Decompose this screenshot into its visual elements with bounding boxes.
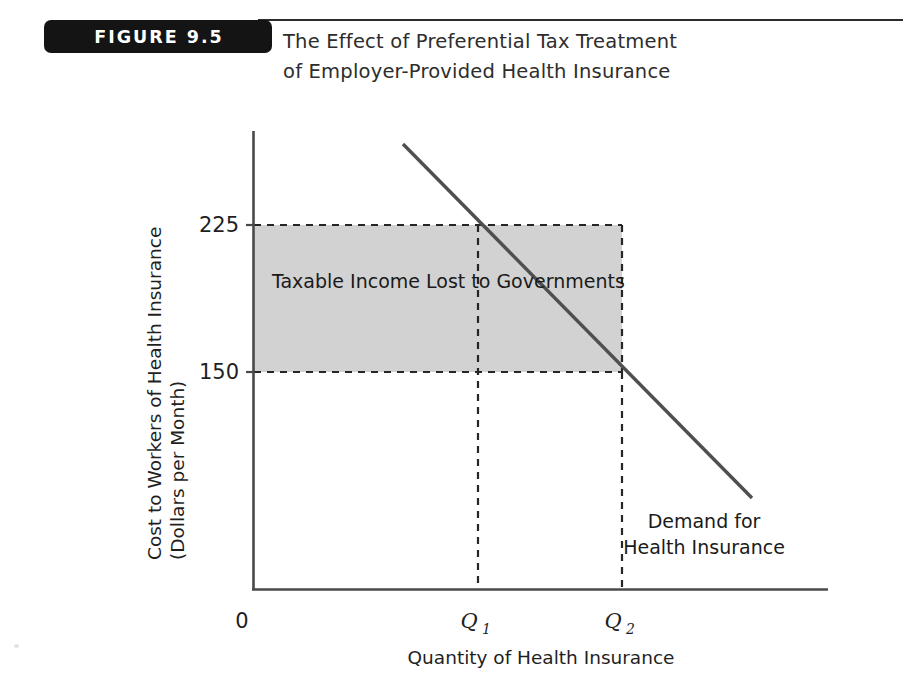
demand-curve-label-line-1: Demand for bbox=[648, 510, 761, 532]
x-axis-title: Quantity of Health Insurance bbox=[408, 647, 675, 668]
x-tick-label-q1-subscript: 1 bbox=[482, 621, 491, 637]
y-axis-title-line-1: Cost to Workers of Health Insurance bbox=[144, 227, 165, 560]
x-tick-label-q1: Q 1 bbox=[460, 609, 491, 637]
scan-artifact-speck bbox=[14, 644, 19, 648]
shaded-region-label: Taxable Income Lost to Governments bbox=[271, 270, 625, 292]
x-tick-label-q1-base: Q bbox=[460, 609, 477, 633]
x-tick-label-q2-subscript: 2 bbox=[625, 621, 635, 637]
y-tick-label-150: 150 bbox=[199, 360, 239, 384]
y-tick-label-225: 225 bbox=[199, 213, 239, 237]
x-tick-label-q2: Q 2 bbox=[604, 609, 635, 637]
y-axis-title-line-2: (Dollars per Month) bbox=[167, 381, 188, 560]
shaded-region-taxable-income bbox=[254, 225, 622, 372]
x-tick-label-q2-base: Q bbox=[604, 609, 621, 633]
chart-area: 225 150 Cost to Workers of Health Insura… bbox=[0, 0, 915, 676]
demand-curve-label-line-2: Health Insurance bbox=[623, 536, 785, 558]
origin-label: 0 bbox=[235, 609, 248, 633]
